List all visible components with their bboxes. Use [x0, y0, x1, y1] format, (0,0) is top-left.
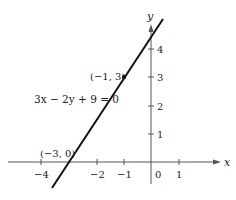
x-tick-label: −4 [34, 169, 49, 180]
y-axis-label: y [146, 10, 154, 23]
x-axis-arrow-icon [213, 160, 221, 165]
point-label-b: (−3, 0) [40, 148, 75, 159]
x-tick-label: −2 [90, 169, 105, 180]
y-tick-label: 4 [157, 44, 163, 55]
y-axis-arrow-icon [149, 24, 154, 32]
y-tick-label: 3 [157, 72, 163, 83]
x-tick-label: 1 [176, 169, 182, 180]
x-tick-label: −1 [117, 169, 132, 180]
y-tick-label: 1 [157, 129, 163, 140]
point-label-a: (−1, 3) [90, 71, 125, 82]
line-graph: x y −4 −2 −1 0 1 1 2 3 4 (−1, 3) (−3, 0)… [0, 0, 236, 200]
x-tick-label: 0 [155, 169, 161, 180]
equation-label: 3x − 2y + 9 = 0 [34, 93, 119, 105]
y-tick-label: 2 [157, 101, 163, 112]
x-axis-label: x [224, 156, 231, 169]
